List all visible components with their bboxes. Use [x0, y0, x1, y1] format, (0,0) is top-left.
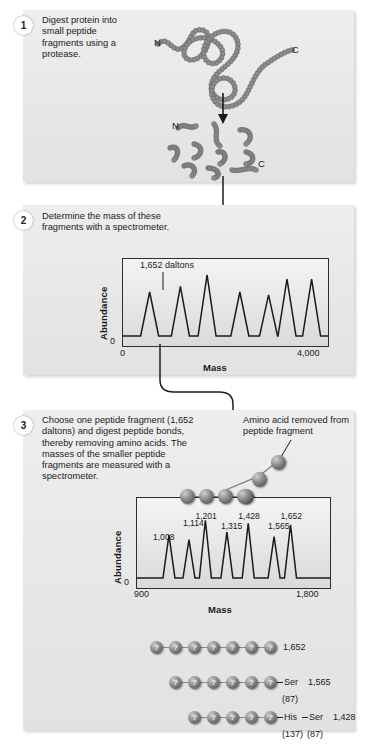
chart2-peak-label-4: 1,315	[221, 521, 243, 531]
unknown-residue-bead: ?	[150, 641, 163, 654]
n-terminus-label-top: N	[154, 37, 161, 48]
peptide-row-mass: 1,565	[308, 677, 331, 687]
step-3-number: 3	[14, 416, 33, 435]
unknown-residue-bead: ?	[226, 641, 239, 654]
unknown-residue-bead: ?	[264, 641, 277, 654]
peptide-sphere-1	[180, 489, 195, 504]
residue-mass-label: (87)	[307, 729, 323, 739]
peptide-sphere-2	[199, 489, 214, 504]
residue-name-label: His	[284, 712, 297, 722]
chart2-x-tick-min: 900	[134, 589, 149, 599]
released-amino-acid-sphere-1	[271, 455, 286, 470]
step-1-text: Digest protein into small peptide fragme…	[42, 15, 138, 60]
chart2-peak-label-5: 1,428	[238, 511, 260, 521]
chart2-peak-label-3: 1,201	[195, 511, 217, 521]
unknown-residue-bead: ?	[188, 676, 201, 689]
unknown-residue-bead: ?	[245, 676, 258, 689]
chart2-peak-label-6: 1,565	[268, 521, 290, 531]
chart1-y-zero-tick: 0	[110, 336, 115, 346]
chart1-y-axis-label: Abundance	[98, 268, 109, 340]
residue-bond-line	[277, 717, 283, 718]
step-2-number: 2	[14, 211, 33, 230]
n-terminus-label-bottom: N	[172, 120, 179, 131]
residue-bond-line	[277, 682, 283, 683]
chart2-y-zero-tick: 0	[124, 577, 129, 587]
unknown-residue-bead: ?	[245, 711, 258, 724]
unknown-residue-bead: ?	[264, 676, 277, 689]
released-amino-acid-leader-lines	[243, 440, 353, 500]
unknown-residue-bead: ?	[188, 711, 201, 724]
chart1-x-tick-max: 4,000	[297, 348, 320, 358]
peptide-sphere-3	[218, 489, 233, 504]
c-terminus-label-top: C	[292, 44, 299, 55]
chart2-x-tick-max: 1,800	[296, 589, 319, 599]
unknown-residue-bead: ?	[226, 676, 239, 689]
c-terminus-label-bottom: C	[258, 158, 265, 169]
mass-spectrum-chart-1	[122, 258, 329, 347]
residue-mass-label: (87)	[282, 694, 298, 704]
chart2-peak-label-1: 1,008	[153, 532, 175, 542]
step-1-number: 1	[14, 16, 33, 35]
chart2-y-axis-label: Abundance	[112, 512, 123, 584]
chart1-x-tick-min: 0	[120, 348, 125, 358]
unknown-residue-bead: ?	[207, 641, 220, 654]
chart1-annotation-leader-line	[160, 272, 166, 290]
chart1-peak-annotation: 1,652 daltons	[140, 260, 194, 270]
unknown-residue-bead: ?	[207, 711, 220, 724]
chart2-x-axis-label: Mass	[208, 604, 232, 615]
unknown-residue-bead: ?	[226, 711, 239, 724]
residue-name-label: Ser	[284, 677, 298, 687]
residue-mass-label: (137)	[282, 729, 303, 739]
step-2-text: Determine the mass of these fragments wi…	[42, 211, 192, 234]
unknown-residue-bead: ?	[188, 641, 201, 654]
residue-bond-line	[302, 717, 308, 718]
unknown-residue-bead: ?	[207, 676, 220, 689]
unknown-residue-bead: ?	[169, 676, 182, 689]
released-amino-acid-sphere-2	[252, 472, 267, 487]
unknown-residue-bead: ?	[245, 641, 258, 654]
chart2-peak-label-7: 1,652	[280, 511, 302, 521]
peptide-sphere-4	[237, 489, 252, 504]
amino-acid-removed-annotation: Amino acid removed from peptide fragment	[243, 415, 358, 438]
step-3-text: Choose one peptide fragment (1,652 dalto…	[42, 415, 200, 483]
unknown-residue-bead: ?	[169, 641, 182, 654]
unknown-residue-bead: ?	[264, 711, 277, 724]
peptide-row-mass: 1,652	[283, 642, 306, 652]
residue-name-label: Ser	[309, 712, 323, 722]
peptide-row-mass: 1,428	[333, 712, 356, 722]
